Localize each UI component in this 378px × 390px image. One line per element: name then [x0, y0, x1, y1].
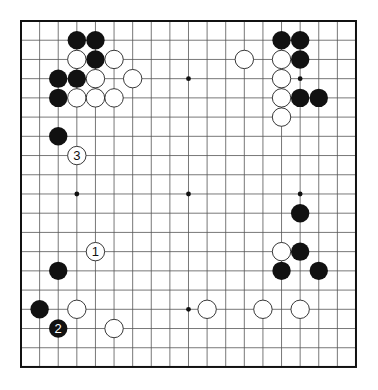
stone-circle [105, 50, 123, 68]
white-stone[interactable] [105, 319, 123, 337]
go-board[interactable]: 312 [0, 0, 378, 390]
black-stone[interactable] [310, 89, 328, 107]
stone-circle [272, 89, 290, 107]
stone-circle [68, 50, 86, 68]
stone-circle [291, 300, 309, 318]
white-stone[interactable] [272, 50, 290, 68]
stone-circle [272, 108, 290, 126]
stone-circle [49, 89, 67, 107]
black-stone[interactable] [291, 242, 309, 260]
white-stone[interactable] [198, 300, 216, 318]
star-point [186, 307, 191, 312]
stone-circle [291, 31, 309, 49]
stone-circle [68, 89, 86, 107]
stone-circle [68, 69, 86, 87]
star-point [186, 192, 191, 197]
stone-circle [86, 31, 104, 49]
white-stone[interactable] [68, 300, 86, 318]
stone-circle [198, 300, 216, 318]
stone-circle [272, 69, 290, 87]
star-point [298, 192, 303, 197]
black-stone[interactable] [30, 300, 48, 318]
stone-circle [235, 50, 253, 68]
stone-circle [272, 242, 290, 260]
black-stone[interactable] [291, 89, 309, 107]
star-point [74, 192, 79, 197]
white-stone[interactable] [272, 69, 290, 87]
star-point [298, 76, 303, 81]
stone-circle [49, 127, 67, 145]
black-stone[interactable] [272, 262, 290, 280]
stone-circle [291, 89, 309, 107]
white-stone[interactable] [105, 50, 123, 68]
white-stone[interactable] [86, 89, 104, 107]
black-stone[interactable] [291, 50, 309, 68]
stone-circle [49, 262, 67, 280]
black-stone[interactable] [49, 89, 67, 107]
white-stone[interactable] [123, 69, 141, 87]
stones-layer: 312 [30, 31, 328, 338]
stone-circle [254, 300, 272, 318]
stone-circle [272, 31, 290, 49]
stone-circle [68, 300, 86, 318]
stone-circle [30, 300, 48, 318]
black-stone[interactable] [68, 31, 86, 49]
white-stone[interactable] [235, 50, 253, 68]
black-stone[interactable] [291, 204, 309, 222]
stone-circle [86, 50, 104, 68]
black-stone[interactable] [291, 31, 309, 49]
white-stone[interactable] [86, 69, 104, 87]
star-point [186, 76, 191, 81]
black-stone[interactable] [49, 262, 67, 280]
black-stone[interactable] [86, 31, 104, 49]
white-stone-move-1[interactable]: 1 [86, 242, 104, 260]
stone-circle [272, 262, 290, 280]
black-stone[interactable] [310, 262, 328, 280]
white-stone[interactable] [68, 50, 86, 68]
move-number-label: 2 [55, 321, 62, 336]
white-stone[interactable] [272, 242, 290, 260]
black-stone[interactable] [49, 69, 67, 87]
stone-circle [310, 89, 328, 107]
stone-circle [105, 319, 123, 337]
stone-circle [272, 50, 290, 68]
stone-circle [105, 89, 123, 107]
move-number-label: 1 [92, 244, 99, 259]
white-stone[interactable] [272, 89, 290, 107]
black-stone-move-2[interactable]: 2 [49, 319, 67, 337]
white-stone[interactable] [272, 108, 290, 126]
stone-circle [68, 31, 86, 49]
stone-circle [291, 242, 309, 260]
stone-circle [310, 262, 328, 280]
stone-circle [86, 89, 104, 107]
move-number-label: 3 [73, 148, 80, 163]
stone-circle [49, 69, 67, 87]
black-stone[interactable] [49, 127, 67, 145]
white-stone[interactable] [254, 300, 272, 318]
stone-circle [123, 69, 141, 87]
white-stone[interactable] [105, 89, 123, 107]
stone-circle [86, 69, 104, 87]
stone-circle [291, 50, 309, 68]
white-stone[interactable] [68, 89, 86, 107]
black-stone[interactable] [272, 31, 290, 49]
white-stone-move-3[interactable]: 3 [68, 146, 86, 164]
stone-circle [291, 204, 309, 222]
black-stone[interactable] [68, 69, 86, 87]
white-stone[interactable] [291, 300, 309, 318]
black-stone[interactable] [86, 50, 104, 68]
